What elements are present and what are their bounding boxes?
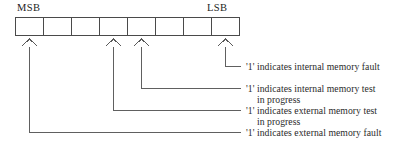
caret-up-icon-bit-7 [218,39,233,46]
leader-line-bit-0 [30,47,242,133]
annotation-line-1: '1' indicates external memory test [246,105,377,116]
annotation-line-1: '1' indicates internal memory test [246,83,375,94]
annotation-external-memory-fault: '1' indicates external memory fault [246,127,381,138]
bit-pointer-carets [22,39,233,46]
msb-label: MSB [17,2,40,13]
leader-line-bit-4 [142,47,242,89]
annotation-line-2: in progress [246,94,375,105]
annotation-line-2: in progress [246,116,377,127]
annotation-internal-memory-fault: '1' indicates internal memory fault [246,61,380,72]
leader-line-bit-3 [114,47,242,111]
annotation-internal-memory-test: '1' indicates internal memory test in pr… [246,83,375,105]
annotation-line-1: '1' indicates external memory fault [246,127,381,138]
register-box [16,18,240,36]
register-bitfield-diagram: MSB LSB '1' indicates internal memory fa… [0,0,400,153]
lsb-label: LSB [207,2,227,13]
caret-up-icon-bit-0 [22,39,37,46]
leader-line-bit-7 [226,47,242,67]
leader-lines [30,47,242,133]
annotation-external-memory-test: '1' indicates external memory test in pr… [246,105,377,127]
caret-up-icon-bit-4 [134,39,149,46]
caret-up-icon-bit-3 [106,39,121,46]
annotation-line-1: '1' indicates internal memory fault [246,61,380,72]
